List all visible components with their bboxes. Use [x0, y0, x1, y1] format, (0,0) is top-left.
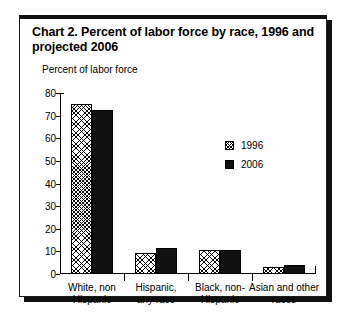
legend-swatch-2006-icon	[225, 160, 234, 169]
y-tick-mark	[56, 274, 60, 275]
category-label-line: races	[244, 294, 324, 306]
x-tick-mark	[124, 274, 125, 281]
y-tick-label: 20	[36, 223, 56, 234]
legend-label-1996: 1996	[241, 140, 263, 151]
frame-shadow-right	[327, 20, 332, 302]
legend-item-2006: 2006	[225, 157, 263, 172]
y-tick-label: 10	[36, 246, 56, 257]
bar-2006-1	[92, 110, 113, 274]
chart-legend: 1996 2006	[225, 138, 263, 176]
x-tick-mark	[188, 274, 189, 281]
chart-screenshot: Chart 2. Percent of labor force by race,…	[0, 0, 343, 318]
y-tick-label: 40	[36, 178, 56, 189]
bar-2006-2	[156, 248, 177, 274]
legend-label-2006: 2006	[241, 159, 263, 170]
bar-1996-3	[199, 250, 220, 274]
bar-1996-1	[71, 104, 92, 274]
bar-2006-4	[284, 265, 305, 275]
legend-item-1996: 1996	[225, 138, 263, 153]
legend-swatch-1996-icon	[225, 141, 234, 150]
category-label-line: Asian and other	[244, 282, 324, 294]
plot-area: 01020304050607080 White, nonHispanicHisp…	[20, 16, 326, 296]
category-label-4: Asian and otherraces	[244, 282, 324, 305]
bar-1996-4	[263, 267, 284, 274]
y-tick-label: 0	[36, 269, 56, 280]
bar-2006-3	[220, 250, 241, 274]
y-tick-label: 60	[36, 133, 56, 144]
chart-frame: Chart 2. Percent of labor force by race,…	[19, 15, 327, 297]
y-tick-label: 70	[36, 110, 56, 121]
x-tick-mark	[252, 274, 253, 281]
bar-1996-2	[135, 253, 156, 274]
y-tick-label: 30	[36, 201, 56, 212]
bars-area	[60, 93, 316, 274]
y-tick-label: 50	[36, 155, 56, 166]
y-tick-label: 80	[36, 88, 56, 99]
